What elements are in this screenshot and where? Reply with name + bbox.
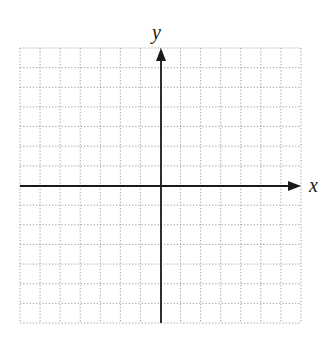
coordinate-plane: x y [0, 0, 322, 338]
x-axis-arrowhead-icon [288, 181, 301, 191]
y-axis-label: y [150, 21, 161, 44]
x-axis-label: x [308, 174, 318, 196]
y-axis-arrowhead-icon [156, 48, 166, 61]
